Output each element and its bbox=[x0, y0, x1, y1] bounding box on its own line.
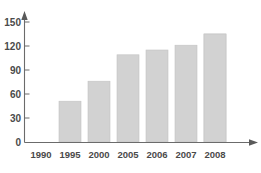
bar-2005 bbox=[146, 50, 168, 142]
x-axis-arrow-icon bbox=[249, 139, 258, 145]
y-tick-label-120: 120 bbox=[4, 41, 21, 52]
x-tick-label-2000: 2000 bbox=[88, 149, 109, 160]
x-tick-label-2007: 2007 bbox=[175, 149, 196, 160]
bar-2000 bbox=[117, 55, 139, 142]
bar-chart: 150 120 90 60 30 0 1990 1995 2000 2005 2… bbox=[0, 0, 261, 173]
y-axis-arrow-icon bbox=[21, 11, 27, 20]
y-tick-label-90: 90 bbox=[10, 65, 22, 76]
bar-1995 bbox=[88, 81, 110, 142]
y-tick-labels: 150 120 90 60 30 0 bbox=[4, 17, 21, 148]
y-tick-label-0: 0 bbox=[15, 137, 21, 148]
bars-group bbox=[59, 34, 226, 142]
y-tick-label-60: 60 bbox=[10, 89, 22, 100]
x-tick-label-2005: 2005 bbox=[117, 149, 139, 160]
x-tick-label-2008: 2008 bbox=[204, 149, 225, 160]
x-tick-label-2006: 2006 bbox=[146, 149, 167, 160]
y-tick-label-30: 30 bbox=[10, 113, 22, 124]
x-tick-labels: 1990 1995 2000 2005 2006 2007 2008 bbox=[30, 149, 225, 160]
bar-2006 bbox=[175, 45, 197, 142]
chart-canvas: 150 120 90 60 30 0 1990 1995 2000 2005 2… bbox=[0, 0, 261, 173]
bar-2008 bbox=[204, 34, 226, 142]
x-tick-label-1995: 1995 bbox=[59, 149, 81, 160]
x-tick-label-1990: 1990 bbox=[30, 149, 51, 160]
y-axis bbox=[21, 11, 29, 143]
y-tick-label-150: 150 bbox=[4, 17, 21, 28]
bar-1990 bbox=[59, 101, 81, 142]
